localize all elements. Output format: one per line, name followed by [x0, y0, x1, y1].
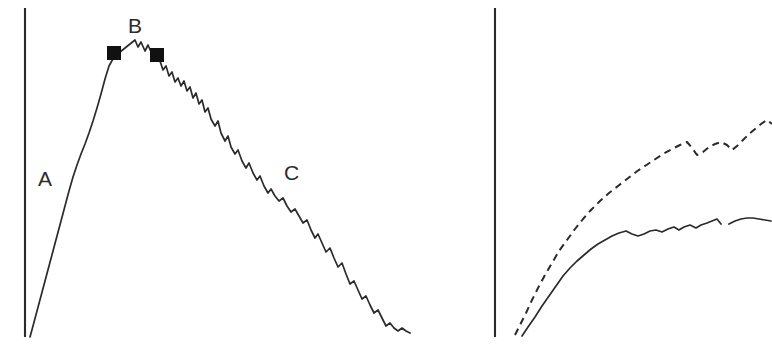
phase-label-b: B: [128, 15, 142, 36]
left-panel-main-curve: [30, 40, 410, 337]
right-chart-svg: [440, 0, 772, 354]
left-chart-svg: [0, 0, 440, 354]
marker-b-end: [151, 49, 164, 62]
marker-b-start: [108, 47, 121, 60]
right-chart-panel: [440, 0, 772, 354]
phase-label-c: C: [284, 162, 299, 183]
right-panel-lower-solid-curve: [522, 219, 721, 336]
left-chart-panel: A B C: [0, 0, 440, 354]
right-panel-upper-dashed-curve: [515, 120, 772, 335]
left-panel-markers-group: [108, 47, 164, 62]
figure-root: A B C: [0, 0, 772, 354]
right-panel-lower-solid-curve-segment-2: [729, 218, 771, 224]
phase-label-a: A: [38, 168, 52, 189]
